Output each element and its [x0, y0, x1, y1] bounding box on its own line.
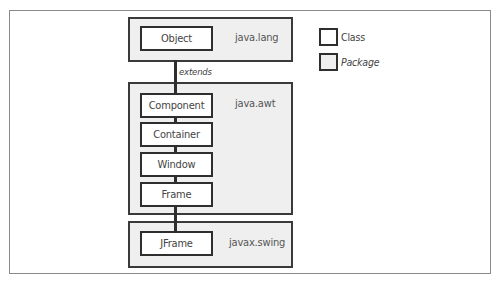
class-component-label: Component — [149, 99, 205, 112]
class-jframe-label: JFrame — [160, 237, 192, 250]
package-java-awt-label: java.awt — [235, 97, 275, 110]
connector-object-component-upper — [174, 60, 177, 84]
legend-class-swatch — [319, 28, 338, 46]
class-jframe: JFrame — [140, 231, 213, 256]
legend-class-label: Class — [341, 31, 365, 43]
class-container: Container — [140, 122, 213, 147]
class-frame: Frame — [140, 182, 213, 207]
class-frame-label: Frame — [162, 188, 192, 201]
package-java-lang-label: java.lang — [235, 31, 278, 44]
class-component: Component — [140, 93, 213, 118]
class-window-label: Window — [158, 158, 196, 171]
class-container-label: Container — [153, 128, 200, 141]
class-window: Window — [140, 152, 213, 177]
package-javax-swing-label: javax.swing — [229, 236, 285, 249]
class-object-label: Object — [161, 32, 192, 45]
legend-package-label: Package — [341, 56, 379, 68]
class-object: Object — [140, 26, 213, 51]
extends-label: extends — [179, 66, 212, 77]
legend-package-swatch — [319, 53, 338, 71]
